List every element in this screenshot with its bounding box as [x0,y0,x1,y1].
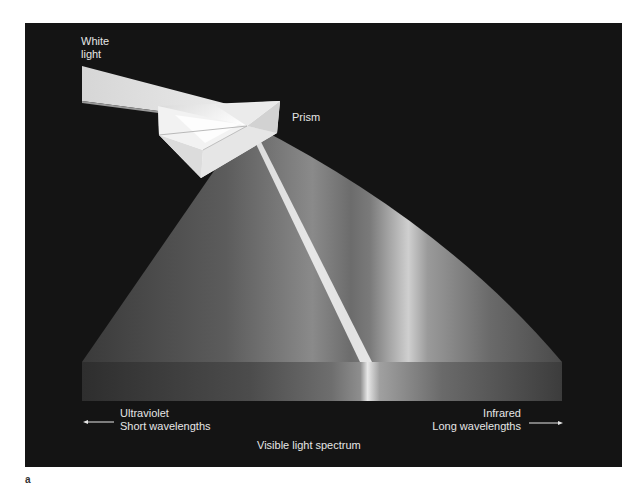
white-light-label-line2: light [81,48,109,61]
diagram-panel: White light Prism Ultraviolet Short wave… [25,23,622,467]
short-wavelengths-text: Short wavelengths [120,420,211,433]
infrared-label: Infrared Long wavelengths [417,407,521,433]
dispersed-light-fan [82,124,562,362]
white-light-label-line1: White [81,35,109,48]
long-wavelengths-text: Long wavelengths [417,420,521,433]
spectrum-band [82,362,562,401]
visible-spectrum-label: Visible light spectrum [257,439,361,452]
figure-panel-letter: a [25,474,31,485]
ultraviolet-label: Ultraviolet Short wavelengths [120,407,211,433]
infrared-text: Infrared [417,407,521,420]
prism-label: Prism [292,111,320,124]
prism-diagram-graphic [25,23,622,467]
arrow-right-icon [529,421,563,425]
white-light-label: White light [81,35,109,61]
arrow-left-icon [83,420,114,424]
ultraviolet-text: Ultraviolet [120,407,211,420]
